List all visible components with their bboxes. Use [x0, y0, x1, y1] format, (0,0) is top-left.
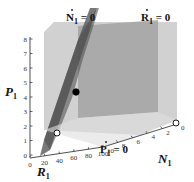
r-tick-label: 80 [85, 152, 93, 160]
interior-equilibrium-point [73, 89, 79, 95]
p-tick-label: 5 [24, 79, 28, 87]
n-tick-label: 0 [181, 124, 185, 132]
p-tick-label: 7 [24, 50, 28, 58]
figure-3d-nullclines: 0123456780204060801000246810 P1 R1 N1 N1… [0, 0, 194, 182]
n-tick-label: 6 [137, 138, 141, 146]
n-axis-label: N1 [157, 151, 171, 168]
n-tick [161, 127, 163, 129]
p-axis-label: P1 [5, 84, 17, 101]
p-tick-label: 3 [24, 108, 28, 116]
p-tick-label: 4 [24, 94, 28, 102]
n-tick-label: 2 [166, 129, 170, 137]
r-tick-label: 40 [56, 157, 64, 165]
boundary-equilibrium-low-point [54, 130, 60, 136]
p-tick-label: 8 [24, 36, 28, 44]
p-tick-label: 2 [24, 123, 28, 131]
r-tick-label: 0 [28, 161, 32, 169]
boundary-equilibrium-origin-point [173, 120, 179, 126]
p-tick-label: 0 [24, 152, 28, 160]
n-tick-label: 4 [151, 133, 155, 141]
p-tick-label: 6 [24, 65, 28, 73]
plane-group [40, 8, 177, 156]
r-tick-label: 60 [70, 154, 78, 162]
p-tick-label: 1 [24, 137, 28, 145]
